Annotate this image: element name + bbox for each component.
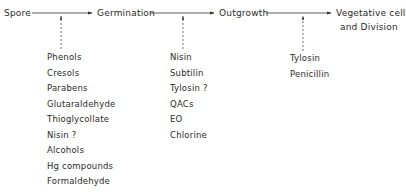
stage-vegetative-cell: Vegetative cell — [336, 8, 406, 18]
inhibitor-list-outgrowth: Nisin Subtilin Tylosin ? QACs EO Chlorin… — [170, 52, 208, 145]
stage-germination: Germination — [97, 8, 155, 18]
inhibitor-item: Chlorine — [170, 130, 208, 146]
inhibitor-item: Nisin — [170, 52, 208, 68]
inhibitor-item: Thioglycollate — [47, 114, 115, 130]
stage-outgrowth: Outgrowth — [219, 8, 268, 18]
inhibitor-item: Cresols — [47, 68, 115, 84]
inhibitor-item: Alcohols — [47, 145, 115, 161]
inhibitor-item: Glutaraldehyde — [47, 99, 115, 115]
inhibitor-item: Nisin ? — [47, 130, 115, 146]
inhibitor-item: Parabens — [47, 83, 115, 99]
inhibitor-list-germination: Phenols Cresols Parabens Glutaraldehyde … — [47, 52, 115, 192]
inhibitor-item: Phenols — [47, 52, 115, 68]
inhibitor-item: Tylosin ? — [170, 83, 208, 99]
inhibitor-item: Hg compounds — [47, 161, 115, 177]
inhibitor-item: EO — [170, 114, 208, 130]
inhibitor-item: Penicillin — [290, 69, 329, 85]
inhibitor-item: Formaldehyde — [47, 176, 115, 192]
inhibitor-item: QACs — [170, 99, 208, 115]
inhibitor-list-vegetative: Tylosin Penicillin — [290, 53, 329, 84]
inhibitor-item: Subtilin — [170, 68, 208, 84]
stage-division: and Division — [340, 22, 398, 32]
stage-spore: Spore — [4, 8, 31, 18]
inhibitor-item: Tylosin — [290, 53, 329, 69]
